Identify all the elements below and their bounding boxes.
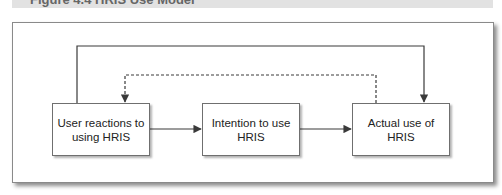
node-label: Intention to use HRIS (203, 116, 299, 144)
node-actual-use: Actual use of HRIS (352, 103, 450, 156)
edge-feedback-actual-use-to-reactions (125, 75, 376, 103)
node-user-reactions: User reactions to using HRIS (52, 103, 150, 156)
node-label: Actual use of HRIS (353, 116, 449, 144)
diagram-connectors (0, 0, 502, 195)
node-label: User reactions to using HRIS (53, 116, 149, 144)
node-intention-to-use: Intention to use HRIS (202, 103, 300, 156)
